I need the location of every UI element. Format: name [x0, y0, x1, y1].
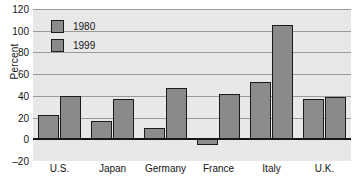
x-tick-label: Japan [99, 163, 126, 174]
y-tick-label: 40 [18, 90, 29, 101]
bar [272, 25, 293, 139]
legend-item-1999: 1999 [51, 36, 137, 55]
x-tick-label: U.K. [315, 163, 334, 174]
y-tick-mark [33, 52, 39, 53]
x-axis-tick-labels: U.S.JapanGermanyFranceItalyU.K. [33, 163, 351, 183]
x-tick-label: Italy [262, 163, 280, 174]
bar [144, 128, 165, 139]
y-tick-label: 20 [18, 112, 29, 123]
y-tick-label: –20 [12, 156, 29, 167]
bar [219, 94, 240, 140]
plot-area: 1980 1999 [33, 9, 351, 161]
x-tick-label: U.S. [50, 163, 69, 174]
y-tick-mark [33, 9, 39, 10]
x-tick-label: Germany [145, 163, 186, 174]
y-tick-label: 80 [18, 47, 29, 58]
gridline [33, 9, 351, 10]
y-tick-label: 0 [23, 134, 29, 145]
legend-label-1999: 1999 [73, 41, 95, 51]
legend-swatch-1999 [51, 39, 64, 52]
bar [113, 99, 134, 139]
y-tick-label: 60 [18, 69, 29, 80]
legend-item-1980: 1980 [51, 17, 137, 36]
chart-legend: 1980 1999 [51, 17, 137, 55]
bar [60, 96, 81, 139]
bar-chart-figure: Percent 120100806040200–20 1980 1999 U.S… [0, 0, 353, 185]
bar [250, 82, 271, 140]
y-axis-tick-labels: 120100806040200–20 [0, 0, 32, 185]
legend-label-1980: 1980 [73, 22, 95, 32]
legend-swatch-1980 [51, 20, 64, 33]
bar [197, 139, 218, 144]
y-tick-mark [33, 139, 39, 140]
gridline [33, 74, 351, 75]
y-tick-mark [33, 74, 39, 75]
y-tick-label: 100 [12, 25, 29, 36]
bar [325, 97, 346, 139]
bar [91, 121, 112, 139]
y-tick-mark [33, 96, 39, 97]
bar [303, 99, 324, 139]
x-tick-label: France [203, 163, 234, 174]
y-tick-label: 120 [12, 4, 29, 15]
bar [166, 88, 187, 139]
bar [38, 115, 59, 139]
y-tick-mark [33, 31, 39, 32]
